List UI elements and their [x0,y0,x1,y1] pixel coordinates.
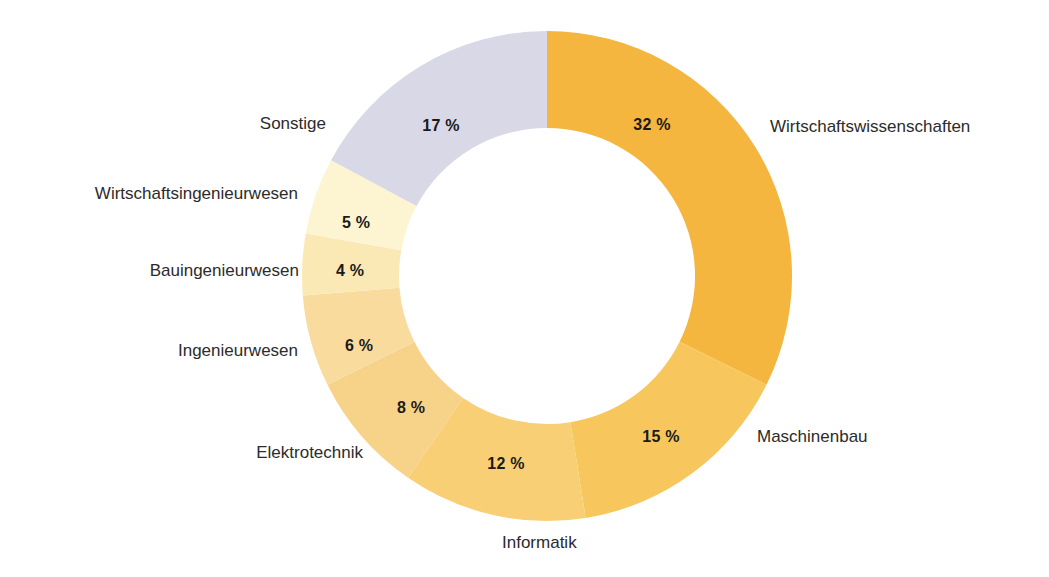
slice-category-label: Bauingenieurwesen [150,261,299,281]
slice-category-label: Sonstige [260,114,326,134]
slice-percentage-label: 17 % [422,117,459,135]
slice-percentage-label: 4 % [336,262,364,280]
slice-percentage-label: 6 % [345,337,373,355]
slice-category-label: Ingenieurwesen [178,341,298,361]
slice-category-label: Elektrotechnik [256,443,363,463]
slice-percentage-label: 15 % [642,428,679,446]
slice-percentage-label: 8 % [397,399,425,417]
slice-percentage-label: 12 % [487,455,524,473]
slice-percentage-label: 32 % [633,116,670,134]
donut-chart-svg [0,0,1049,577]
slice-category-label: Informatik [502,533,577,553]
donut-chart-figure: 32 %15 %12 %8 %6 %4 %5 %17 % Wirtschafts… [0,0,1049,577]
donut-slice-group [302,31,792,521]
slice-percentage-label: 5 % [342,214,370,232]
slice-category-label: Wirtschaftswissenschaften [770,117,970,137]
donut-slice[interactable] [547,31,792,385]
slice-category-label: Wirtschaftsingenieurwesen [95,184,298,204]
slice-category-label: Maschinenbau [757,427,868,447]
